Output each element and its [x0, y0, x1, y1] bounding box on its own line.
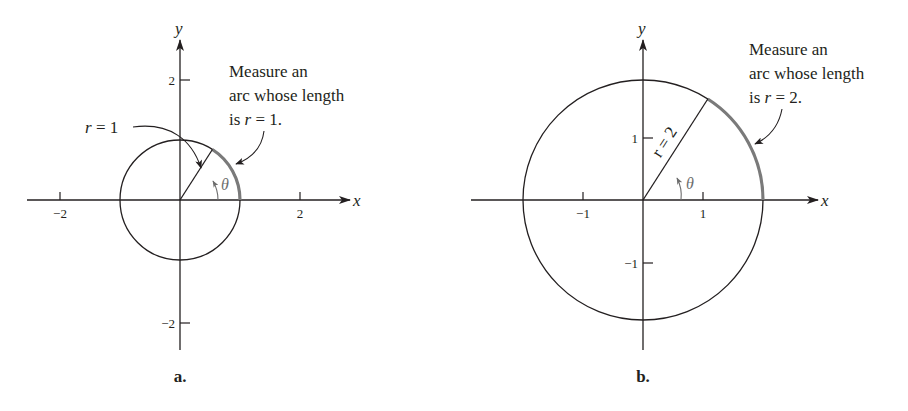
panel-a: x y −2 2 2 −2 θ r = 1 Measure an arc who…: [27, 19, 361, 386]
x-axis-label-b: x: [820, 191, 829, 210]
radius-callout-arrow-a: [133, 126, 201, 168]
y-tick-label-b-pos1: 1: [632, 131, 639, 146]
x-tick-label-b-pos1: 1: [700, 206, 707, 221]
panel-label-a: a.: [174, 367, 187, 386]
y-tick-label-a-neg2: −2: [161, 316, 175, 331]
note-line1-a: Measure an: [229, 62, 308, 81]
note-line1-b: Measure an: [749, 40, 828, 59]
arc-callout-arrow-a: [236, 131, 264, 164]
angle-arrow-a: [213, 181, 218, 200]
radian-definition-figure: x y −2 2 2 −2 θ r = 1 Measure an arc who…: [0, 0, 908, 411]
note-line3-a: is r = 1.: [229, 110, 282, 129]
panel-b: x y −1 1 1 −1 r = 2 θ Measure an arc who…: [471, 19, 865, 386]
radius-label-b: r = 2: [648, 123, 681, 160]
y-tick-label-b-neg1: −1: [624, 256, 638, 271]
highlighted-arc-b: [708, 99, 763, 200]
theta-label-a: θ: [221, 176, 229, 193]
x-tick-label-a-pos2: 2: [297, 206, 304, 221]
note-line3-b: is r = 2.: [749, 88, 802, 107]
x-tick-label-a-neg2: −2: [53, 206, 67, 221]
note-line2-b: arc whose length: [749, 64, 865, 83]
radius-label-a: r = 1: [85, 118, 118, 137]
y-tick-label-a-pos2: 2: [169, 73, 176, 88]
x-axis-label-a: x: [352, 191, 361, 210]
arc-callout-arrow-b: [755, 109, 782, 144]
y-axis-label-a: y: [173, 19, 183, 38]
y-axis-label-b: y: [636, 19, 646, 38]
note-line2-a: arc whose length: [229, 86, 345, 105]
x-tick-label-b-neg1: −1: [576, 206, 590, 221]
angle-arrow-b: [677, 178, 681, 200]
panel-label-b: b.: [636, 367, 650, 386]
theta-label-b: θ: [686, 175, 694, 192]
